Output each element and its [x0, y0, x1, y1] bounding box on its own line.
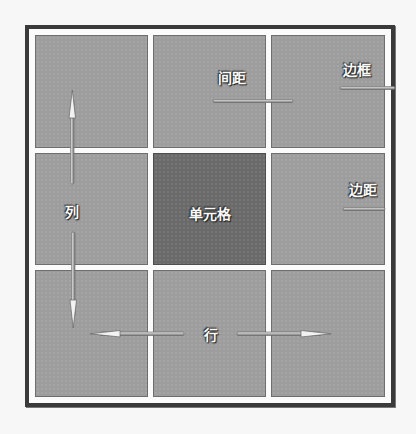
column-label: 列: [65, 201, 79, 221]
column-arrow-down: [70, 232, 77, 328]
row-arrow-left: [90, 331, 184, 338]
border-label: 边框: [343, 59, 371, 79]
padding-indicator-line: [343, 208, 385, 211]
table-structure-diagram: 单元格 列 行 间距 边框 边距: [0, 0, 416, 434]
row-arrow-right: [237, 331, 331, 338]
padding-label: 边距: [349, 179, 377, 199]
cell-label: 单元格: [189, 203, 231, 223]
spacing-label: 间距: [218, 67, 246, 87]
column-arrow-up: [69, 90, 76, 184]
row-label: 行: [204, 324, 218, 344]
spacing-indicator-line: [213, 100, 293, 103]
border-indicator-line: [340, 87, 395, 90]
